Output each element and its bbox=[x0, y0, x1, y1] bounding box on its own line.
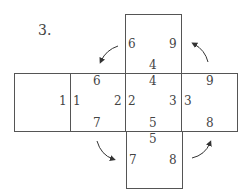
arrow-icon bbox=[97, 141, 113, 159]
arrow-icon bbox=[194, 44, 208, 62]
arrow-icon bbox=[101, 46, 118, 61]
arrow-icon bbox=[192, 143, 210, 158]
fold-arrows bbox=[0, 0, 250, 195]
